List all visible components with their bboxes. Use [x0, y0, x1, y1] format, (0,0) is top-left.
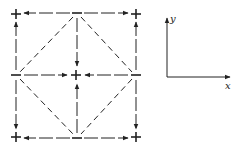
x-axis-label: x: [225, 80, 231, 91]
plus-icon-tr: [131, 9, 141, 19]
y-axis-label: y: [169, 13, 176, 24]
coordinate-axes: [167, 18, 230, 77]
plus-icon-bl: [11, 132, 21, 142]
plus-icon-tl: [11, 9, 21, 19]
diagram-canvas: y x: [0, 0, 240, 149]
plus-icon-br: [131, 132, 141, 142]
plus-icon-center: [71, 70, 81, 80]
